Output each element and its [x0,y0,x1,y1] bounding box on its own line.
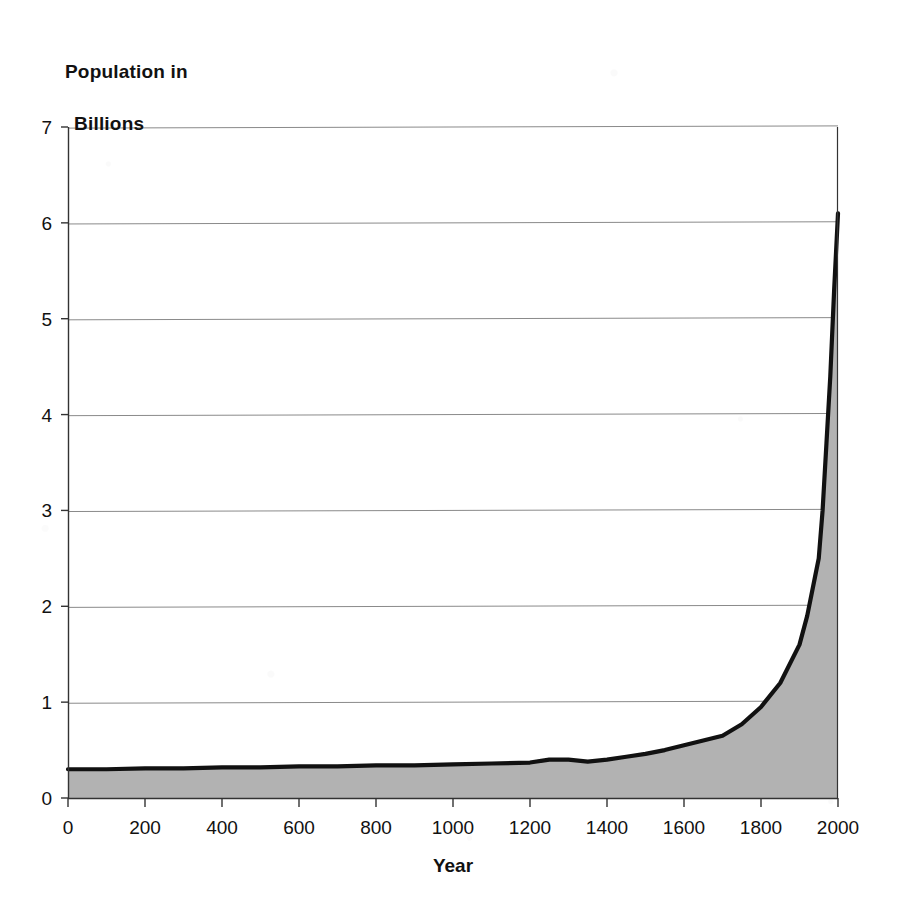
x-tick-label-1000: 1000 [432,817,474,838]
y-tick-label-0: 0 [41,788,52,809]
y-tick-label-6: 6 [41,213,52,234]
y-tick-label-1: 1 [41,692,52,713]
y-tick-label-5: 5 [41,309,52,330]
x-tick-label-200: 200 [129,817,161,838]
y-tick-label-2: 2 [41,596,52,617]
axis-title-line-1: Population in [65,61,188,82]
y-tick-label-3: 3 [41,500,52,521]
y-tick-label-7: 7 [41,117,52,138]
chart-axis-title: Population in Billions [54,33,188,163]
x-axis-ticks: 0200400600800100012001400160018002000 [63,798,859,838]
axis-title-line-2: Billions [54,111,188,137]
x-tick-label-1600: 1600 [663,817,705,838]
x-tick-label-800: 800 [360,817,392,838]
y-tick-label-4: 4 [41,405,52,426]
x-tick-label-600: 600 [283,817,315,838]
x-tick-label-2000: 2000 [817,817,859,838]
y-axis-ticks: 01234567 [41,117,68,809]
x-tick-label-400: 400 [206,817,238,838]
x-tick-label-1800: 1800 [740,817,782,838]
plot-area-background [68,127,838,798]
x-tick-label-1200: 1200 [509,817,551,838]
x-tick-label-1400: 1400 [586,817,628,838]
x-tick-label-0: 0 [63,817,74,838]
x-axis-label: Year [433,855,474,876]
